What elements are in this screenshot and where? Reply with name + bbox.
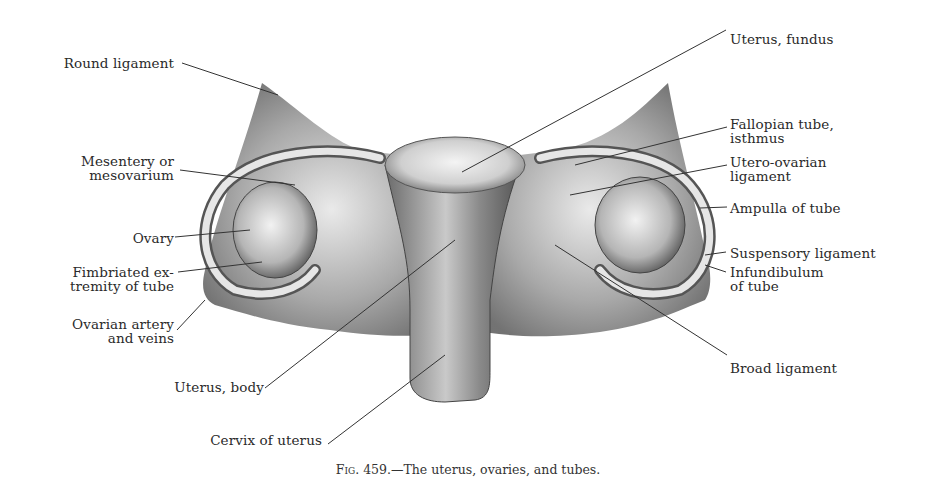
caption-text: —The uterus, ovaries, and tubes. — [391, 462, 600, 477]
label-text: ligament — [730, 169, 827, 183]
label-text: mesovarium — [20, 168, 174, 182]
label-text: Fallopian tube, — [730, 117, 834, 131]
label-text: Ovary — [133, 230, 174, 246]
label-text: Ovarian artery — [20, 317, 174, 331]
label-suspensory-ligament: Suspensory ligament — [730, 246, 876, 260]
label-fallopian-isthmus: Fallopian tube, isthmus — [730, 117, 834, 145]
label-uterus-body: Uterus, body — [60, 380, 264, 394]
label-mesentery: Mesentery or mesovarium — [20, 154, 174, 182]
label-text: Uterus, fundus — [730, 31, 834, 47]
label-fimbriated-extremity: Fimbriated ex- tremity of tube — [20, 265, 174, 293]
label-text: Infundibulum — [730, 265, 824, 279]
label-text: tremity of tube — [20, 279, 174, 293]
label-ovarian-artery: Ovarian artery and veins — [20, 317, 174, 345]
label-text: of tube — [730, 279, 824, 293]
label-broad-ligament: Broad ligament — [730, 361, 837, 375]
label-text: Suspensory ligament — [730, 245, 876, 261]
label-text: Cervix of uterus — [210, 432, 322, 448]
label-text: isthmus — [730, 131, 834, 145]
label-text: Fimbriated ex- — [20, 265, 174, 279]
label-text: Uterus, body — [174, 379, 264, 395]
label-ampulla: Ampulla of tube — [730, 201, 841, 215]
figure-caption: Fig. 459.—The uterus, ovaries, and tubes… — [0, 462, 936, 477]
label-text: Round ligament — [64, 55, 174, 71]
label-ovary: Ovary — [20, 231, 174, 245]
label-text: Mesentery or — [20, 154, 174, 168]
label-text: and veins — [20, 331, 174, 345]
label-round-ligament: Round ligament — [20, 56, 174, 70]
label-infundibulum: Infundibulum of tube — [730, 265, 824, 293]
label-text: Ampulla of tube — [730, 200, 841, 216]
label-text: Broad ligament — [730, 360, 837, 376]
label-cervix: Cervix of uterus — [100, 433, 322, 447]
caption-figure-number: Fig. 459. — [336, 462, 391, 477]
label-uterus-fundus: Uterus, fundus — [730, 32, 834, 46]
label-utero-ovarian-ligament: Utero-ovarian ligament — [730, 155, 827, 183]
label-text: Utero-ovarian — [730, 155, 827, 169]
anatomical-figure: Round ligament Mesentery or mesovarium O… — [0, 0, 936, 499]
